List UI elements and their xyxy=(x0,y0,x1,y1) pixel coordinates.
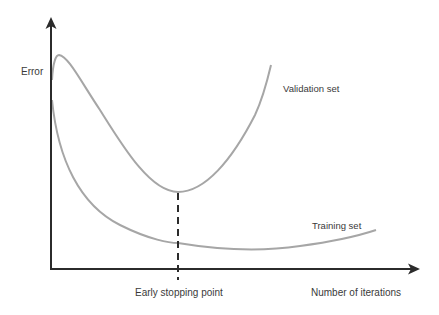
validation-curve xyxy=(52,55,271,192)
validation-set-label: Validation set xyxy=(283,83,339,95)
y-axis-label: Error xyxy=(21,66,43,78)
early-stopping-label: Early stopping point xyxy=(135,287,223,299)
diagram-graphics xyxy=(0,0,439,315)
early-stopping-diagram: Error Validation set Training set Early … xyxy=(0,0,439,315)
x-axis-label: Number of iterations xyxy=(311,287,401,299)
training-set-label: Training set xyxy=(312,220,361,232)
